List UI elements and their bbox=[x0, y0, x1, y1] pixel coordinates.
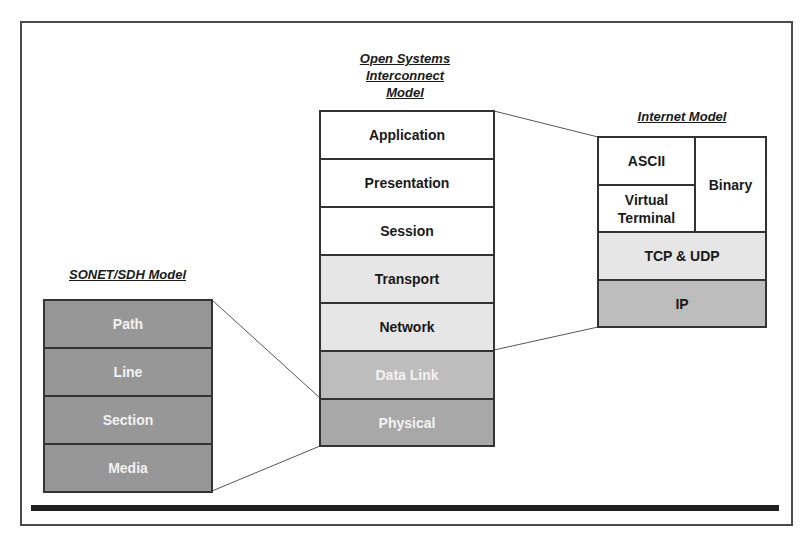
osi-layer-data-link: Data Link bbox=[321, 352, 493, 400]
osi-layer-physical: Physical bbox=[321, 400, 493, 445]
osi-title-line-3: Model bbox=[330, 84, 480, 101]
osi-layer-transport: Transport bbox=[321, 256, 493, 304]
virtual-terminal-line-2: Terminal bbox=[618, 209, 675, 227]
internet-cell-ip: IP bbox=[599, 281, 765, 326]
osi-model-title: Open Systems Interconnect Model bbox=[330, 50, 480, 101]
internet-cell-virtual-terminal: Virtual Terminal bbox=[599, 186, 696, 233]
internet-stack: ASCII Virtual Terminal Binary TCP & UDP … bbox=[597, 136, 767, 328]
sonet-layer-section: Section bbox=[45, 397, 211, 445]
sonet-layer-media: Media bbox=[45, 445, 211, 491]
sonet-model-title: SONET/SDH Model bbox=[40, 266, 215, 283]
internet-model-title: Internet Model bbox=[600, 108, 764, 125]
connector-sonet-top-to-osi-physical bbox=[212, 300, 320, 398]
internet-cell-tcp-udp: TCP & UDP bbox=[599, 233, 765, 281]
sonet-layer-line: Line bbox=[45, 349, 211, 397]
connector-sonet-bottom-to-osi-physical bbox=[212, 446, 320, 491]
connector-osi-network-to-internet-bottom bbox=[494, 327, 598, 350]
osi-layer-network: Network bbox=[321, 304, 493, 352]
sonet-stack: Path Line Section Media bbox=[43, 299, 213, 493]
sonet-layer-path: Path bbox=[45, 301, 211, 349]
internet-cell-binary: Binary bbox=[696, 138, 765, 233]
osi-stack: Application Presentation Session Transpo… bbox=[319, 110, 495, 447]
osi-title-line-2: Interconnect bbox=[330, 67, 480, 84]
osi-layer-application: Application bbox=[321, 112, 493, 160]
osi-layer-session: Session bbox=[321, 208, 493, 256]
osi-title-line-1: Open Systems bbox=[330, 50, 480, 67]
osi-layer-presentation: Presentation bbox=[321, 160, 493, 208]
connector-osi-application-to-internet-top bbox=[494, 111, 598, 137]
virtual-terminal-line-1: Virtual bbox=[625, 191, 668, 209]
internet-cell-ascii: ASCII bbox=[599, 138, 696, 186]
bottom-divider-bar bbox=[31, 505, 779, 511]
